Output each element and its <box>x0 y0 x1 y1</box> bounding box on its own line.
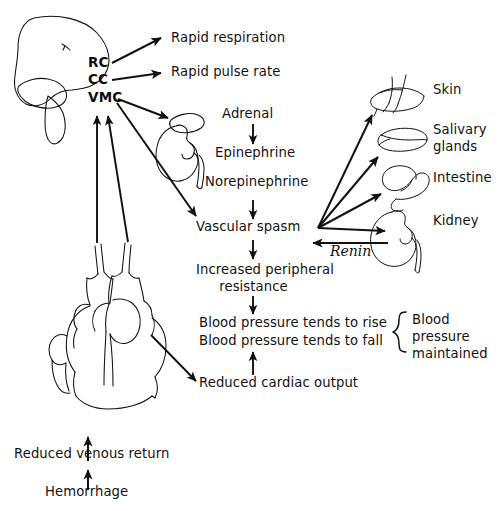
label-vascular-spasm: Vascular spasm <box>196 219 300 235</box>
arrow-spasm-to-intestine <box>318 194 381 228</box>
label-rapid-respiration: Rapid respiration <box>171 30 285 46</box>
skin-illustration <box>371 75 424 116</box>
label-hemorrhage: Hemorrhage <box>45 484 128 500</box>
vascular-spasm-target-arrows <box>313 115 388 243</box>
blood-pressure-brace <box>393 312 406 352</box>
label-renin: Renin <box>330 243 371 259</box>
label-kidney: Kidney <box>433 213 479 229</box>
label-adrenal: Adrenal <box>222 106 273 122</box>
label-reduced-cardiac-output: Reduced cardiac output <box>199 375 358 391</box>
kidney-illustration <box>371 211 421 273</box>
label-increased-peripheral-resistance: Increased peripheral resistance <box>196 261 311 295</box>
label-skin: Skin <box>433 82 461 98</box>
baroreceptor-feedback-arrows <box>97 116 128 243</box>
label-respiratory-center: RC <box>88 54 109 70</box>
label-epinephrine: Epinephrine <box>215 145 295 161</box>
label-bp-tends-to-rise: Blood pressure tends to rise <box>199 315 387 331</box>
intestine-illustration <box>382 166 429 212</box>
label-salivary-glands: Salivary glands <box>433 121 487 155</box>
arrow-vmc-to-vascular-spasm <box>117 103 196 216</box>
diagram-canvas: RC CC VMC Rapid respiration Rapid pulse … <box>0 0 504 511</box>
arrow-spasm-to-skin <box>318 115 372 228</box>
heart-illustration <box>49 243 166 409</box>
label-norepinephrine: Norepinephrine <box>205 174 308 190</box>
arrow-rc-to-rapid-respiration <box>112 38 161 63</box>
label-rapid-pulse-rate: Rapid pulse rate <box>171 64 281 80</box>
label-reduced-venous-return: Reduced venous return <box>14 446 170 462</box>
arrow-spasm-to-salivary-glands <box>318 157 378 228</box>
adrenal-kidney-illustration <box>156 114 204 189</box>
arrow-spasm-to-kidney <box>318 228 385 231</box>
label-blood-pressure-maintained: Blood pressure maintained <box>412 311 488 362</box>
label-bp-tends-to-fall: Blood pressure tends to fall <box>199 333 383 349</box>
arrow-heart-to-vmc-2 <box>108 116 128 242</box>
arrow-cc-to-rapid-pulse <box>112 73 161 80</box>
label-intestine: Intestine <box>433 170 492 186</box>
salivary-glands-illustration <box>378 128 427 151</box>
label-cardiac-center: CC <box>88 71 108 87</box>
label-vasomotor-center: VMC <box>88 89 122 105</box>
